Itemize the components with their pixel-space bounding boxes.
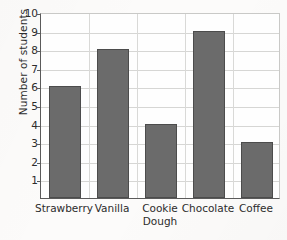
- y-axis-tick-mark: [37, 144, 41, 145]
- y-axis-tick-label: 8: [23, 45, 38, 56]
- y-axis-tick-label: 3: [23, 138, 38, 149]
- y-axis-tick-mark: [37, 33, 41, 34]
- y-axis-tick-mark: [37, 126, 41, 127]
- plot-area: [40, 13, 280, 199]
- y-axis-tick-mark: [37, 70, 41, 71]
- y-axis-tick-label: 7: [23, 64, 38, 75]
- bar: [49, 86, 81, 198]
- y-axis-tick-mark: [37, 51, 41, 52]
- y-axis-tick-label: 5: [23, 101, 38, 112]
- y-axis-tick-label: 6: [23, 82, 38, 93]
- y-axis-tick-mark: [37, 88, 41, 89]
- y-axis-tick-label: 2: [23, 157, 38, 168]
- y-axis-tick-label: 10: [23, 8, 38, 19]
- y-axis-tick-mark: [37, 14, 41, 15]
- y-axis-tick-mark: [37, 163, 41, 164]
- bar: [193, 31, 225, 198]
- bar: [97, 49, 129, 198]
- y-axis-tick-mark: [37, 181, 41, 182]
- bar: [145, 124, 177, 198]
- y-axis-tick-label: 4: [23, 119, 38, 130]
- x-axis-category-label: Coffee: [224, 202, 287, 215]
- y-axis-tick-labels: 10987654321: [23, 8, 38, 199]
- bar-chart: Number of students 10987654321 Strawberr…: [0, 0, 287, 240]
- bar: [241, 142, 273, 198]
- x-axis-category-labels: StrawberryVanillaCookie DoughChocolateCo…: [40, 202, 280, 238]
- y-axis-tick-mark: [37, 107, 41, 108]
- y-axis-tick-label: 9: [23, 26, 38, 37]
- y-axis-tick-label: 1: [23, 175, 38, 186]
- bar-series: [41, 14, 279, 198]
